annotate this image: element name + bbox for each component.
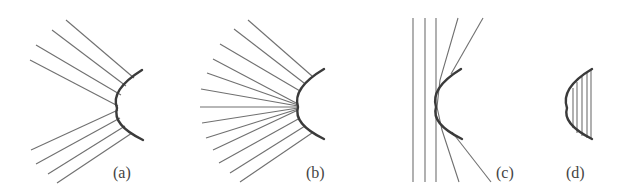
convex-mirror-c bbox=[435, 69, 462, 139]
panel-a: (a) bbox=[30, 20, 143, 183]
optics-diagram: (a) (b) bbox=[0, 0, 633, 196]
panel-d: (d) bbox=[566, 69, 592, 182]
parallel-rays-c bbox=[413, 18, 436, 182]
panel-label-a: (a) bbox=[113, 164, 131, 182]
panel-label-c: (c) bbox=[496, 164, 514, 182]
reflected-rays-c bbox=[437, 18, 491, 182]
rays-b bbox=[200, 20, 312, 182]
panel-c: (c) bbox=[413, 18, 514, 182]
panel-b: (b) bbox=[200, 20, 325, 182]
panel-label-b: (b) bbox=[306, 164, 325, 182]
panel-label-d: (d) bbox=[566, 164, 585, 182]
convex-mirror-d bbox=[566, 69, 592, 139]
rays-a bbox=[30, 20, 134, 183]
